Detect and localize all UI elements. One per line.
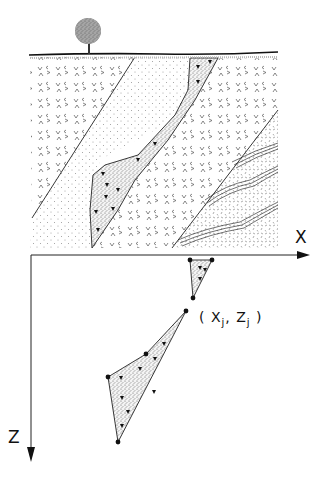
x-axis-arrow-icon xyxy=(297,251,310,259)
tree-icon xyxy=(75,18,101,54)
paren-close: ) xyxy=(256,309,262,325)
ground-surface xyxy=(29,52,278,55)
coord-x: X xyxy=(211,309,222,325)
coord-z: Z xyxy=(236,309,247,325)
paren-open: ( xyxy=(199,309,205,325)
cross-section-block xyxy=(29,52,278,248)
small-breccia-polygon xyxy=(188,258,215,301)
coord-sep: , xyxy=(225,309,230,325)
large-breccia-polygon xyxy=(106,309,189,445)
vertex-coordinate-label: ( Xj, Zj ) xyxy=(199,309,263,328)
z-axis-label: Z xyxy=(8,427,20,447)
coord-z-sub: j xyxy=(247,317,251,328)
coordinate-axes xyxy=(27,251,310,462)
geology-diagram xyxy=(0,0,325,483)
z-axis-arrow-icon xyxy=(27,447,35,462)
x-axis-label: X xyxy=(295,227,307,247)
